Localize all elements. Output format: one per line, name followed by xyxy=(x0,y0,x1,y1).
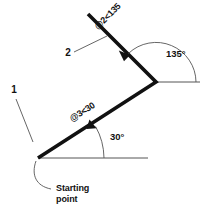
segment-2-length-label: @2<135 xyxy=(92,1,122,31)
callout-leader-2 xyxy=(74,36,107,52)
starting-point-label-line2: point xyxy=(56,194,78,204)
starting-point-label-line1: Starting xyxy=(56,183,89,193)
polyline-geometry xyxy=(38,14,156,158)
segment-1-length-label: @3<30 xyxy=(68,100,97,124)
callout-label-1: 1 xyxy=(11,84,17,95)
starting-point-leader xyxy=(34,161,51,189)
polar-coordinate-diagram: @2<135 @3<30 135° 30° 1 2 Starting point xyxy=(0,0,209,213)
angle-label-30: 30° xyxy=(110,131,125,142)
callout-leader-1 xyxy=(16,99,33,142)
diagram-canvas: @2<135 @3<30 135° 30° 1 2 Starting point xyxy=(0,0,209,213)
angle-arc-30 xyxy=(96,127,104,159)
angle-label-135: 135° xyxy=(166,48,186,59)
callout-label-2: 2 xyxy=(65,47,71,58)
